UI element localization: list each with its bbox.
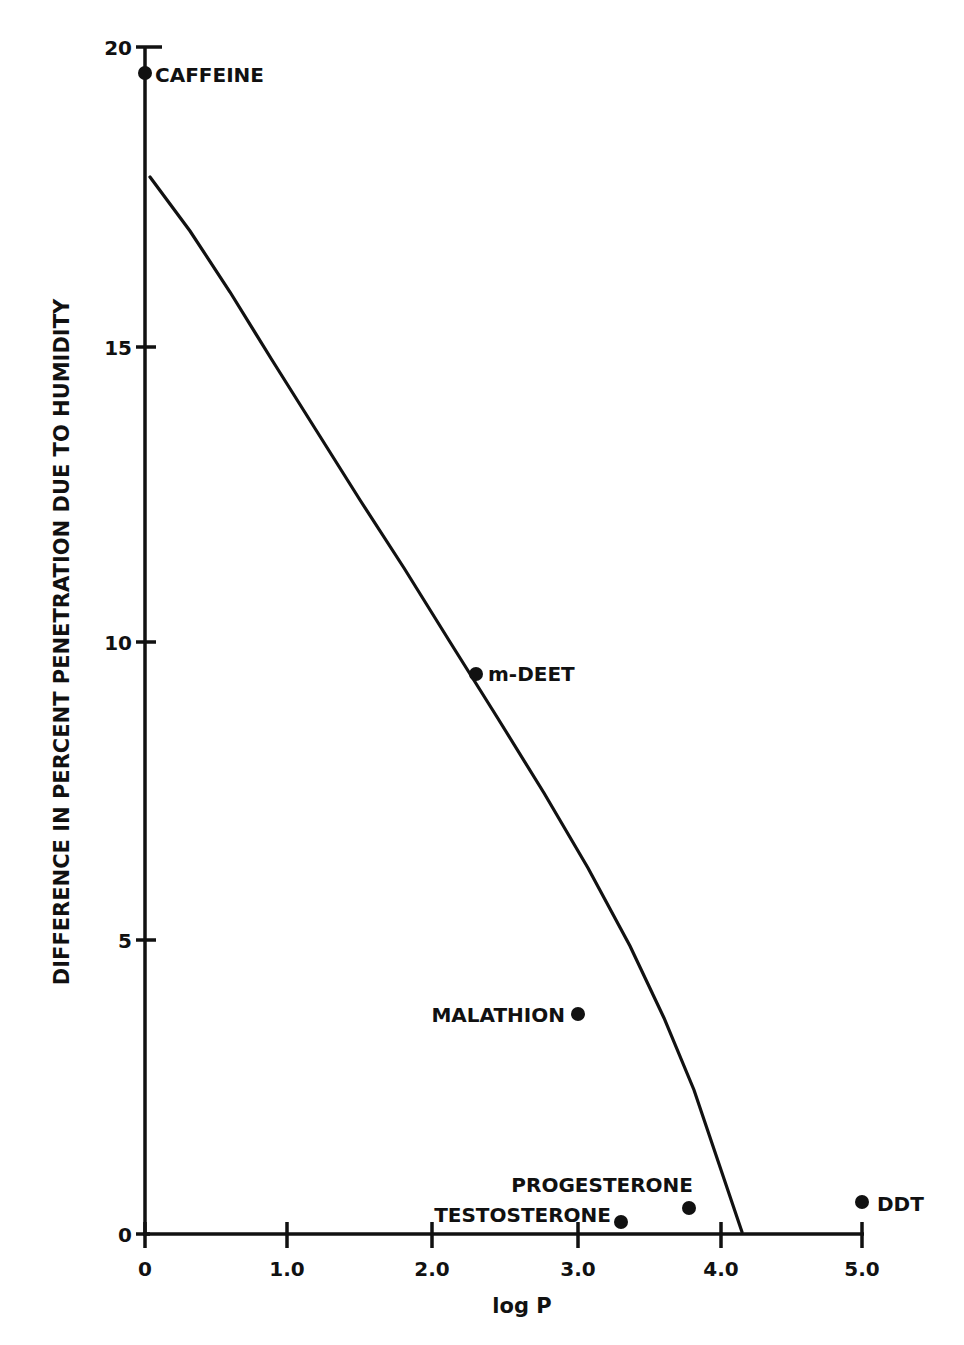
x-axis-title: log P — [492, 1294, 551, 1318]
y-axis-title: DIFFERENCE IN PERCENT PENETRATION DUE TO… — [50, 298, 74, 985]
label-progesterone: PROGESTERONE — [511, 1173, 693, 1197]
point-progesterone — [682, 1201, 696, 1215]
x-tick-4: 4.0 — [703, 1257, 738, 1281]
point-testosterone — [614, 1215, 628, 1229]
x-tick-1: 1.0 — [269, 1257, 304, 1281]
point-m-deet — [469, 667, 483, 681]
x-tick-5: 5.0 — [844, 1257, 879, 1281]
x-tick-labels: 0 1.0 2.0 3.0 4.0 5.0 — [138, 1257, 880, 1281]
label-malathion: MALATHION — [431, 1003, 565, 1027]
x-tick-2: 2.0 — [414, 1257, 449, 1281]
y-tick-5: 5 — [118, 929, 132, 953]
y-tick-15: 15 — [104, 336, 132, 360]
fit-curve — [150, 177, 742, 1232]
y-tick-0: 0 — [118, 1223, 132, 1247]
data-points — [138, 66, 869, 1229]
point-malathion — [571, 1007, 585, 1021]
point-caffeine — [138, 66, 152, 80]
label-caffeine: CAFFEINE — [155, 63, 264, 87]
point-ddt — [855, 1195, 869, 1209]
label-testosterone: TESTOSTERONE — [434, 1203, 611, 1227]
axes — [136, 47, 864, 1248]
scatter-chart: 20 15 10 5 0 0 1.0 2.0 3.0 4.0 5.0 log P… — [0, 0, 964, 1345]
label-m-deet: m-DEET — [488, 662, 575, 686]
label-ddt: DDT — [877, 1192, 924, 1216]
point-labels: CAFFEINE m-DEET MALATHION TESTOSTERONE P… — [155, 63, 924, 1227]
y-tick-10: 10 — [104, 631, 132, 655]
x-tick-3: 3.0 — [560, 1257, 595, 1281]
x-tick-0: 0 — [138, 1257, 152, 1281]
y-tick-20: 20 — [104, 36, 132, 60]
y-tick-labels: 20 15 10 5 0 — [104, 36, 132, 1247]
